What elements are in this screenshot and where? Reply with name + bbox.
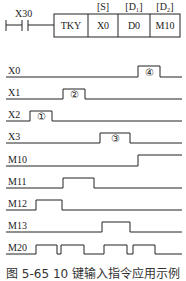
waveform-x2: [6, 111, 182, 121]
waveform-m12: [6, 200, 182, 210]
signal-label-m11: M11: [8, 176, 27, 187]
signal-label-m20: M20: [8, 242, 27, 253]
signal-label-m13: M13: [8, 220, 27, 231]
operand-s: X0: [97, 20, 109, 31]
instruction-name: TKY: [61, 20, 82, 31]
signal-label-m10: M10: [8, 154, 27, 165]
signal-label-x3: X3: [8, 131, 20, 142]
signal-label-x1: X1: [8, 87, 20, 98]
operand-d1: D0: [128, 20, 140, 31]
waveform-m10: [6, 155, 182, 166]
operand-header-d2: [D₂]: [156, 1, 173, 12]
operand-header-d1: [D₁]: [125, 1, 142, 12]
operand-header-s: [S]: [97, 1, 109, 12]
waveform-m13: [6, 222, 182, 232]
timing-waveforms: [6, 66, 182, 254]
waveform-x1: [6, 89, 182, 99]
waveform-x0: [6, 66, 182, 77]
sequence-marker-4: ④: [145, 67, 154, 78]
waveform-m20: [6, 245, 182, 254]
sequence-marker-3: ③: [111, 133, 120, 144]
signal-label-x2: X2: [8, 109, 20, 120]
waveform-m11: [6, 178, 182, 188]
sequence-marker-2: ②: [70, 89, 79, 100]
figure-caption: 图 5-65 10 键输入指令应用示例: [0, 264, 186, 281]
signal-label-x0: X0: [8, 65, 20, 76]
signal-label-m12: M12: [8, 198, 27, 209]
operand-d2: M10: [156, 20, 175, 31]
waveform-x3: [6, 133, 182, 143]
contact-label: X30: [15, 8, 32, 19]
sequence-marker-1: ①: [37, 111, 46, 122]
